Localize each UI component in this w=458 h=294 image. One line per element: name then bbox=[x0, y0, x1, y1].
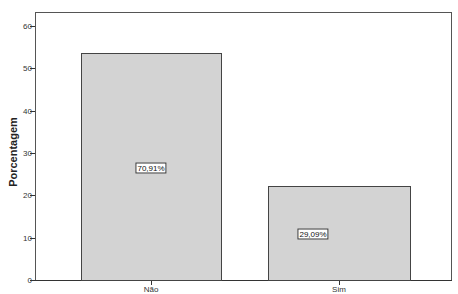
bar-sim bbox=[268, 186, 411, 281]
bar-label-nao: 70,91% bbox=[135, 163, 166, 174]
x-tick-label-nao: Não bbox=[144, 285, 159, 294]
x-tick-label-sim: Sim bbox=[332, 285, 346, 294]
y-tick-label: 50 bbox=[23, 64, 32, 73]
bar-label-sim: 29,09% bbox=[297, 229, 328, 240]
y-tick-label: 40 bbox=[23, 107, 32, 116]
y-tick-label: 0 bbox=[28, 276, 32, 285]
y-axis-label: Porcentagem bbox=[7, 117, 19, 187]
y-tick-label: 20 bbox=[23, 191, 32, 200]
y-tick-label: 10 bbox=[23, 234, 32, 243]
y-tick-label: 60 bbox=[23, 22, 32, 31]
y-tick-label: 30 bbox=[23, 149, 32, 158]
